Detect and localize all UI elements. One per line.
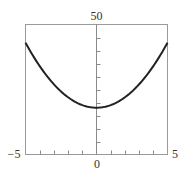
x-max-label: 5 — [172, 147, 178, 161]
y-max-label: 50 — [91, 9, 103, 23]
chart-area: 50 −5 0 5 — [0, 0, 182, 176]
x-min-label: −5 — [8, 147, 21, 161]
y-axis-ticks — [97, 39, 101, 143]
x-zero-label: 0 — [94, 157, 100, 171]
